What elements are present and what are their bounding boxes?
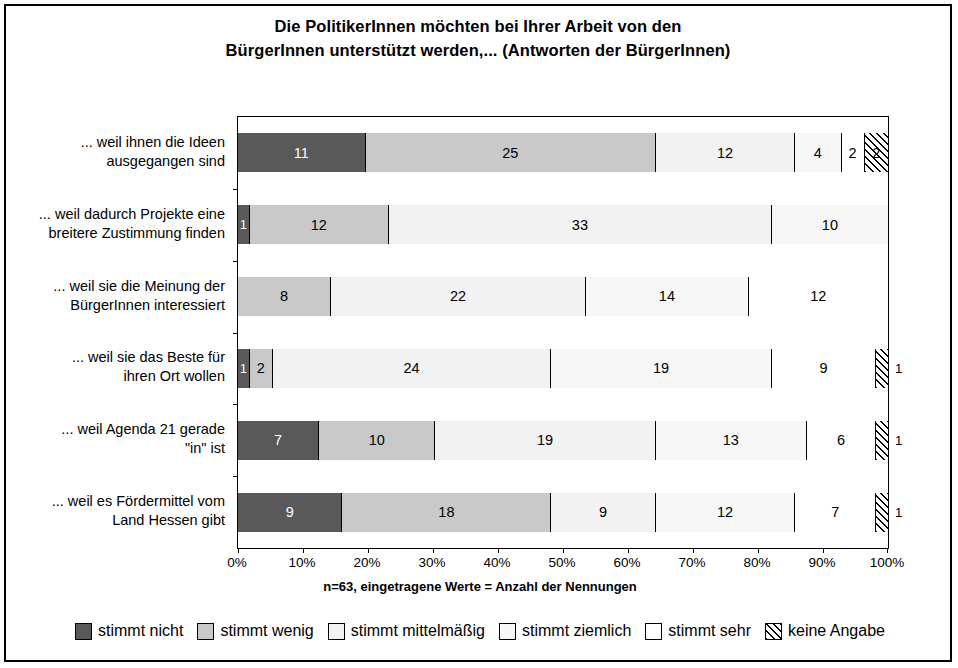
bar-segment: 24: [273, 349, 552, 388]
bar-segment-value: 1: [895, 506, 902, 519]
bar-segment-value: 1: [895, 362, 902, 375]
chart-title-line-2: BürgerInnen unterstützt werden,... (Antw…: [6, 38, 950, 62]
bar-segment: 22: [331, 277, 586, 316]
x-axis-tick: [823, 548, 824, 553]
bar-segment-value: 12: [717, 505, 733, 520]
bar-segment: 33: [389, 205, 772, 244]
sample-size-note: n=63, eingetragene Werte = Anzahl der Ne…: [6, 579, 954, 594]
bar-segment: 2: [250, 349, 273, 388]
chart-frame: Die PolitikerInnen möchten bei Ihrer Arb…: [4, 4, 952, 662]
bar-segment: 6: [807, 421, 877, 460]
bar-segment-value: 9: [599, 505, 607, 520]
bar-segment-value: 14: [659, 289, 675, 304]
bar-segment-value: 25: [502, 146, 518, 161]
bar-segment: 4: [795, 133, 841, 172]
bar-segment: 2: [865, 133, 888, 172]
legend-swatch-stimmt-sehr: [645, 623, 662, 640]
bar-segment-value: 10: [369, 433, 385, 448]
x-axis-tick: [887, 548, 888, 553]
category-label-line: Land Hessen gibt: [11, 511, 225, 530]
bar-segment: 10: [319, 421, 435, 460]
bar-row: 710191361: [238, 421, 888, 460]
category-label-line: "in" ist: [11, 439, 225, 458]
category-label-line: ... weil ihnen die Ideen: [11, 133, 225, 152]
bar-segment-value: 18: [438, 505, 454, 520]
bar-segment: 18: [342, 493, 551, 532]
legend-swatch-stimmt-nicht: [75, 623, 92, 640]
category-label-line: breitere Zustimmung finden: [11, 224, 225, 243]
bar-row: 12241991: [238, 349, 888, 388]
bar-segment-value: 2: [849, 146, 857, 161]
category-label: ... weil ihnen die Ideenausgegangen sind: [11, 133, 233, 171]
x-axis-label: 70%: [669, 555, 715, 570]
category-label-line: ... weil sie die Meinung der: [11, 277, 225, 296]
bar-segment-value: 12: [810, 289, 826, 304]
chart-legend: stimmt nicht stimmt wenig stimmt mittelm…: [6, 622, 954, 640]
bar-segment: 1: [876, 421, 888, 460]
bar-segment-value: 22: [450, 289, 466, 304]
bar-segment-value: 19: [537, 433, 553, 448]
bar-segment: 9: [238, 493, 342, 532]
bar-segment: 1: [238, 205, 250, 244]
legend-swatch-stimmt-wenig: [197, 623, 214, 640]
x-axis-tick: [758, 548, 759, 553]
category-label: ... weil es Fördermittel vomLand Hessen …: [11, 492, 233, 530]
bar-segment: 12: [749, 277, 888, 316]
bar-segment: 12: [656, 493, 795, 532]
category-label-line: ... weil sie das Beste für: [11, 348, 225, 367]
x-axis-label: 40%: [474, 555, 520, 570]
x-axis-tick: [368, 548, 369, 553]
chart-title: Die PolitikerInnen möchten bei Ihrer Arb…: [6, 14, 950, 62]
bar-segment: 9: [772, 349, 876, 388]
bar-segment-value: 4: [814, 146, 822, 161]
bar-segment-value: 19: [653, 361, 669, 376]
legend-label: stimmt wenig: [220, 622, 313, 640]
x-axis-label: 20%: [344, 555, 390, 570]
category-label-line: ... weil es Fördermittel vom: [11, 492, 225, 511]
bar-segment: 13: [656, 421, 807, 460]
x-axis-tick: [303, 548, 304, 553]
x-axis-label: 100%: [864, 555, 910, 570]
bar-segment-value: 2: [257, 361, 265, 376]
bar-segment: 10: [772, 205, 888, 244]
bar-segment: 1: [876, 349, 888, 388]
bar-segment-value: 9: [820, 361, 828, 376]
legend-item: stimmt ziemlich: [499, 622, 631, 640]
bar-segment: 11: [238, 133, 366, 172]
bar-segment-value: 1: [240, 362, 247, 375]
bar-segment: 19: [435, 421, 656, 460]
x-axis-tick: [498, 548, 499, 553]
bar-segment-value: 9: [286, 505, 294, 520]
bar-segment-value: 1: [895, 434, 902, 447]
bar-segment-value: 13: [723, 433, 739, 448]
category-label: ... weil dadurch Projekte einebreitere Z…: [11, 205, 233, 243]
x-axis-tick: [628, 548, 629, 553]
bar-row: 112512422: [238, 133, 888, 172]
bar-segment: 14: [586, 277, 749, 316]
bar-segment: 9: [551, 493, 655, 532]
x-axis-label: 60%: [604, 555, 650, 570]
legend-label: stimmt nicht: [98, 622, 183, 640]
legend-item: stimmt wenig: [197, 622, 313, 640]
bar-segment-value: 1: [240, 218, 247, 231]
x-axis-label: 80%: [734, 555, 780, 570]
bar-segment: 1: [876, 493, 888, 532]
plot-area: 1125124221123310822141212241991710191361…: [237, 116, 889, 549]
bar-segment-value: 7: [831, 505, 839, 520]
legend-item: stimmt mittelmäßig: [328, 622, 485, 640]
x-axis-label: 10%: [279, 555, 325, 570]
x-axis-label: 30%: [409, 555, 455, 570]
category-label-line: ausgegangen sind: [11, 152, 225, 171]
bar-segment-value: 12: [717, 146, 733, 161]
bar-row: 91891271: [238, 493, 888, 532]
bar-segment-value: 33: [572, 218, 588, 233]
bar-segment: 1: [238, 349, 250, 388]
bar-row: 1123310: [238, 205, 888, 244]
legend-label: stimmt mittelmäßig: [351, 622, 485, 640]
bar-segment-value: 7: [274, 433, 282, 448]
x-axis-label: 50%: [539, 555, 585, 570]
legend-swatch-keine-angabe: [765, 623, 782, 640]
category-label-line: ... weil Agenda 21 gerade: [11, 420, 225, 439]
bar-segment-value: 6: [837, 433, 845, 448]
legend-item: keine Angabe: [765, 622, 885, 640]
